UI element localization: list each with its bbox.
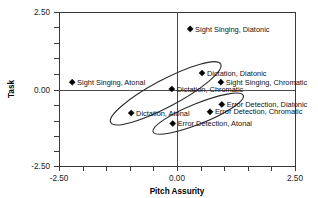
chart-svg: 2.50 0.00 -2.50 -2.50 0.00 2.50 Pitch As…	[0, 0, 318, 198]
data-point-label: Sight Singing, Diatonic	[195, 25, 270, 34]
y-tick-labels: 2.50 0.00 -2.50	[31, 8, 50, 171]
data-point[interactable]: Dictation, Chromatic	[169, 85, 244, 94]
y-axis-ticks	[54, 12, 59, 166]
data-point[interactable]: Error Detection, Atonal	[170, 119, 253, 128]
diamond-marker-icon	[169, 86, 175, 92]
data-point-label: Dictation, Diatonic	[207, 69, 267, 78]
data-point[interactable]: Dictation, Diatonic	[199, 69, 267, 78]
data-points: Sight Singing, DiatonicDictation, Diaton…	[69, 25, 307, 129]
data-point-label: Error Detection, Chromatic	[215, 107, 303, 116]
diamond-marker-icon	[187, 26, 193, 32]
diamond-marker-icon	[69, 79, 75, 85]
diamond-marker-icon	[207, 109, 213, 115]
x-tick-label-mid: 0.00	[169, 174, 185, 183]
data-point-label: Dictation, Chromatic	[177, 85, 244, 94]
data-point[interactable]: Sight Singing, Atonal	[69, 78, 146, 87]
data-point-label: Dictation, Atonal	[136, 109, 190, 118]
data-point-label: Sight Singing, Atonal	[77, 78, 146, 87]
data-point[interactable]: Sight Singing, Diatonic	[187, 25, 270, 34]
y-tick-label-mid: 0.00	[34, 86, 50, 95]
x-tick-label-left: -2.50	[50, 174, 69, 183]
x-tick-labels: -2.50 0.00 2.50	[50, 174, 304, 183]
diamond-marker-icon	[128, 110, 134, 116]
y-tick-label-bottom: -2.50	[31, 162, 50, 171]
x-tick-label-right: 2.50	[287, 174, 303, 183]
data-point-label: Error Detection, Atonal	[178, 119, 253, 128]
diamond-marker-icon	[170, 120, 176, 126]
x-axis-title: Pitch Assurity	[150, 187, 205, 196]
x-axis-ticks	[59, 166, 295, 171]
data-point[interactable]: Dictation, Atonal	[128, 109, 190, 118]
data-point[interactable]: Error Detection, Chromatic	[207, 107, 303, 116]
diamond-marker-icon	[199, 70, 205, 76]
y-tick-label-top: 2.50	[34, 8, 50, 17]
y-axis-title: Task	[7, 80, 16, 98]
scatter-chart: 2.50 0.00 -2.50 -2.50 0.00 2.50 Pitch As…	[0, 0, 318, 198]
